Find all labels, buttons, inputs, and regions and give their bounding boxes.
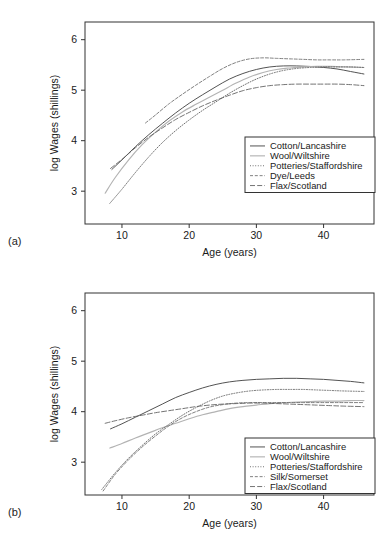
y-tick-label: 4 [71,134,77,146]
x-tick-label: 10 [116,500,128,512]
x-tick-label: 40 [318,229,330,241]
plot-frame [85,22,374,224]
figure-log-wages: 345610203040Age (years)log Wages (shilli… [0,0,388,542]
x-tick-label: 40 [318,500,330,512]
chart-panel-a: 345610203040Age (years)log Wages (shilli… [0,0,388,271]
panel-a-tag: (a) [8,235,21,247]
y-tick-label: 5 [71,84,77,96]
y-tick-label: 5 [71,355,77,367]
x-tick-label: 30 [251,229,263,241]
panel-b-tag: (b) [8,506,21,518]
y-tick-label: 6 [71,304,77,316]
x-axis-title: Age (years) [202,517,256,529]
y-tick-label: 3 [71,185,77,197]
y-tick-label: 4 [71,405,77,417]
chart-b-svg: 345610203040Age (years)log Wages (shilli… [0,271,388,542]
y-tick-label: 3 [71,456,77,468]
series-line [145,58,363,123]
y-axis-title: log Wages (shillings) [48,75,60,171]
x-tick-label: 30 [251,500,263,512]
legend-label: Flax/Scotland [270,180,327,191]
x-tick-label: 20 [183,500,195,512]
x-tick-label: 10 [116,229,128,241]
y-tick-label: 6 [71,33,77,45]
legend-label: Flax/Scotland [270,481,327,492]
y-axis-title: log Wages (shillings) [48,346,60,442]
x-tick-label: 20 [183,229,195,241]
chart-a-svg: 345610203040Age (years)log Wages (shilli… [0,0,388,271]
x-axis-title: Age (years) [202,246,256,258]
chart-panel-b: 345610203040Age (years)log Wages (shilli… [0,271,388,542]
